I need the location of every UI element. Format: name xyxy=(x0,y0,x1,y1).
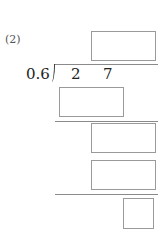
problem-number: (2) xyxy=(5,33,21,46)
final-remainder-answer-box[interactable] xyxy=(123,198,154,229)
subtraction-line-2 xyxy=(55,194,158,195)
remainder-1-answer-box[interactable] xyxy=(91,123,156,153)
dividend-digit-2: 7 xyxy=(103,67,113,82)
subtraction-line-1 xyxy=(55,121,158,122)
divisor: 0.6 xyxy=(26,67,50,82)
product-2-answer-box[interactable] xyxy=(91,160,156,190)
product-1-answer-box[interactable] xyxy=(59,87,124,117)
quotient-answer-box[interactable] xyxy=(91,31,156,61)
division-bracket xyxy=(50,64,55,82)
dividend-digit-1: 2 xyxy=(71,67,81,82)
